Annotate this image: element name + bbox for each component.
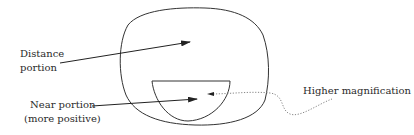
magnification-label: Higher magnification: [303, 85, 412, 96]
bifocal-diagram: Distance portion Near portion (more posi…: [0, 0, 414, 135]
distance-label-line2: portion: [20, 62, 57, 73]
distance-arrow: [60, 42, 190, 63]
near-arrow: [92, 99, 197, 106]
distance-label-line1: Distance: [20, 48, 64, 59]
near-label-line1: Near portion: [30, 99, 96, 110]
distance-portion-outline: [120, 8, 268, 125]
near-label-line2: (more positive): [24, 113, 101, 124]
magnification-arrowhead-icon: [207, 92, 214, 96]
